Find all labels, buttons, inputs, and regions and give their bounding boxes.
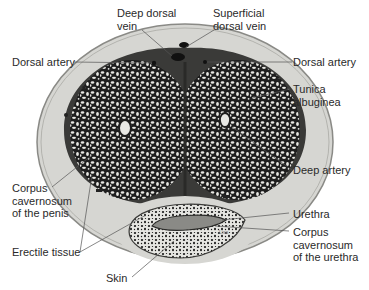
label-deep-artery: Deep artery [293,164,350,177]
label-superficial-dorsal-vein: Superficial dorsal vein [213,7,266,32]
label-tunica-albuginea: Tunica albuginea [293,83,341,108]
label-erectile-tissue: Erectile tissue [12,246,80,259]
label-skin: Skin [106,272,127,285]
label-deep-dorsal-vein: Deep dorsal vein [117,7,176,32]
label-corpus-cavernosum-penis: Corpus cavernosum of the penis [12,182,72,220]
label-urethra: Urethra [293,208,330,221]
artist-signature: Lisa [219,229,228,235]
label-corpus-cavernosum-urethra: Corpus cavernosum of the urethra [293,226,358,264]
corpus-cavernosum-penis [70,60,300,200]
label-dorsal-artery-left: Dorsal artery [12,56,75,69]
label-dorsal-artery-right: Dorsal artery [293,56,356,69]
